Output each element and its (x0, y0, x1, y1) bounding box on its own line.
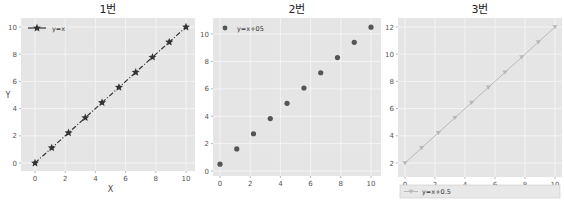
chart-title: 1번 (100, 3, 117, 16)
y-tick-label: 12 (385, 24, 394, 32)
circle-marker (352, 40, 357, 45)
y-tick-label: 8 (13, 51, 17, 59)
legend-label: y=x+05 (237, 25, 264, 33)
x-axis-label: X (108, 185, 114, 194)
y-tick-label: 10 (8, 24, 17, 32)
x-tick-label: 4 (93, 175, 98, 183)
circle-marker (318, 70, 323, 75)
circle-marker (217, 162, 222, 167)
legend: y=x+0.5 (400, 185, 560, 198)
y-axis-label: Y (5, 91, 11, 100)
legend-label: y=x (52, 25, 65, 33)
circle-marker (284, 101, 289, 106)
subplot-1: 024681002468101번XYy=x (5, 3, 195, 194)
y-tick-label: 6 (390, 105, 395, 113)
x-tick-label: 10 (367, 180, 376, 188)
circle-marker (234, 146, 239, 151)
x-tick-label: 2 (248, 180, 252, 188)
chart-title: 2번 (289, 3, 306, 16)
circle-marker (268, 116, 273, 121)
x-tick-label: 2 (63, 175, 67, 183)
y-tick-label: 10 (385, 51, 394, 59)
y-tick-label: 2 (390, 160, 394, 168)
chart-figure: 024681002468101번XYy=x 024681002468102번y=… (0, 0, 564, 202)
x-tick-label: 0 (218, 180, 222, 188)
x-tick-label: 6 (123, 175, 128, 183)
x-tick-label: 8 (154, 175, 158, 183)
y-tick-label: 8 (390, 78, 394, 86)
x-tick-label: 4 (278, 180, 283, 188)
x-tick-label: 6 (308, 180, 313, 188)
subplot-3: 0246810246810123번y=x+0.5 (385, 3, 562, 198)
x-tick-label: 10 (182, 175, 191, 183)
y-tick-label: 6 (205, 85, 210, 93)
y-tick-label: 2 (13, 132, 17, 140)
subplot-2: 024681002468102번y=x+05 (200, 3, 381, 188)
chart-title: 3번 (472, 3, 489, 16)
y-tick-label: 6 (13, 78, 18, 86)
x-tick-label: 0 (33, 175, 37, 183)
y-tick-label: 4 (13, 105, 18, 113)
y-tick-label: 4 (205, 113, 210, 121)
legend-label: y=x+0.5 (422, 188, 451, 196)
circle-marker (368, 25, 373, 30)
y-tick-label: 0 (13, 160, 17, 168)
y-tick-label: 2 (205, 140, 209, 148)
y-tick-label: 10 (200, 31, 209, 39)
circle-marker (335, 55, 340, 60)
y-tick-label: 8 (205, 58, 209, 66)
y-tick-label: 4 (390, 132, 395, 140)
x-tick-label: 8 (339, 180, 343, 188)
circle-marker (251, 131, 256, 136)
circle-marker (301, 85, 306, 90)
y-tick-label: 0 (205, 168, 209, 176)
legend-circle-icon (223, 26, 228, 31)
